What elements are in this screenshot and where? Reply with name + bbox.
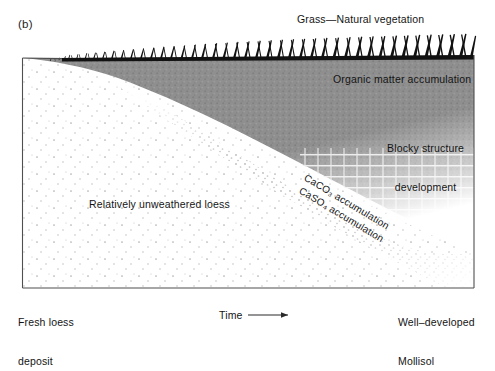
panel-label: (b) <box>18 18 33 30</box>
label-fresh-loess-line1: Fresh loess <box>18 316 74 329</box>
label-unweathered-loess: Relatively unweathered loess <box>89 198 230 211</box>
label-mollisol-line2: Mollisol <box>398 355 475 368</box>
label-mollisol-line1: Well–developed <box>398 316 475 329</box>
label-blocky-structure: Blocky structure development <box>387 116 464 220</box>
grass-vegetation-silhouette <box>50 34 476 62</box>
label-well-developed-mollisol: Well–developed Mollisol <box>398 290 475 371</box>
label-grass-vegetation: Grass—Natural vegetation <box>297 13 424 26</box>
label-blocky-structure-line2: development <box>387 181 464 194</box>
time-axis-arrow <box>248 312 288 318</box>
label-fresh-loess-deposit: Fresh loess deposit <box>18 290 74 371</box>
label-fresh-loess-line2: deposit <box>18 355 74 368</box>
label-blocky-structure-line1: Blocky structure <box>387 142 464 155</box>
label-time-axis: Time <box>219 309 243 322</box>
label-organic-matter-accumulation: Organic matter accumulation <box>333 73 471 86</box>
